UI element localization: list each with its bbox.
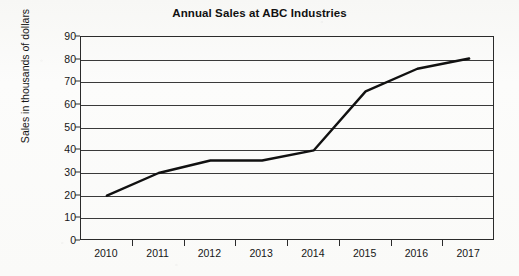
y-axis-tick-mark — [75, 194, 80, 195]
y-axis-tick-mark — [75, 81, 80, 82]
page-title: Annual Sales at ABC Industries — [0, 7, 519, 19]
x-axis-tick-marks — [80, 240, 494, 246]
x-axis-tick-mark — [391, 240, 392, 246]
y-axis-tick-mark — [75, 126, 80, 127]
y-axis-tick-mark — [75, 104, 80, 105]
x-axis-tick-label: 2014 — [301, 247, 324, 259]
y-axis-tick-mark — [75, 36, 80, 37]
x-axis-tick-mark — [184, 240, 185, 246]
x-axis-tick-label: 2012 — [198, 247, 221, 259]
x-axis-tick-mark — [339, 240, 340, 246]
x-axis-tick-mark — [132, 240, 133, 246]
y-axis-tick-labels: 0102030405060708090 — [40, 36, 76, 240]
series-polyline — [107, 59, 469, 196]
plot-area — [80, 36, 494, 240]
y-axis-tick-mark — [75, 217, 80, 218]
x-axis-tick-label: 2017 — [456, 247, 479, 259]
x-axis-tick-mark — [235, 240, 236, 246]
x-axis-tick-label: 2013 — [249, 247, 272, 259]
y-axis-tick-mark — [75, 58, 80, 59]
y-axis-tick-mark — [75, 240, 80, 241]
x-axis-tick-label: 2015 — [353, 247, 376, 259]
y-axis-title: Sales in thousands of dollars — [19, 0, 31, 161]
x-axis-tick-mark — [442, 240, 443, 246]
y-axis-tick-mark — [75, 149, 80, 150]
x-axis-tick-label: 2010 — [94, 247, 117, 259]
x-axis-tick-label: 2016 — [405, 247, 428, 259]
y-axis-tick-mark — [75, 172, 80, 173]
x-axis-tick-label: 2011 — [146, 247, 169, 259]
series-line-chart — [81, 37, 495, 241]
chart-screenshot: Annual Sales at ABC Industries 010203040… — [0, 0, 519, 276]
x-axis-tick-labels: 20102011201220132014201520162017 — [80, 247, 494, 263]
x-axis-tick-mark — [287, 240, 288, 246]
